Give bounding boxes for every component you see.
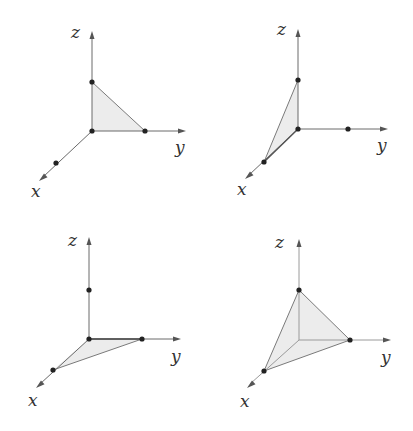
y-point: [142, 128, 147, 133]
z-axis-label: z: [276, 19, 287, 39]
y-arrow-icon: [178, 129, 186, 134]
diagram-panel-3: z y x: [28, 230, 181, 410]
z-arrow-icon: [297, 239, 302, 247]
y-arrow-icon: [383, 338, 391, 343]
y-point: [347, 337, 352, 342]
z-point: [296, 287, 301, 292]
x-point: [261, 368, 266, 373]
z-arrow-icon: [87, 237, 92, 245]
z-point: [295, 77, 300, 82]
x-axis-label: x: [237, 179, 247, 199]
origin-point: [89, 128, 94, 133]
origin-point: [295, 126, 300, 131]
y-arrow-icon: [173, 337, 181, 342]
x-axis-label: x: [240, 391, 250, 411]
x-point: [53, 160, 58, 165]
x-arrow-icon: [247, 381, 256, 389]
z-arrow-icon: [90, 31, 95, 39]
x-axis-label: x: [28, 390, 38, 410]
x-axis: [40, 339, 89, 384]
z-axis-label: z: [70, 22, 81, 42]
shaded-triangle-xyz: [264, 290, 350, 371]
z-point: [86, 287, 91, 292]
y-point: [345, 126, 350, 131]
x-axis-label: x: [31, 181, 41, 201]
y-point: [139, 336, 144, 341]
diagram-panel-1: z y x: [31, 22, 186, 201]
y-axis-label: y: [174, 137, 185, 157]
origin-point: [86, 336, 91, 341]
diagram-panel-2: z y x: [237, 19, 388, 199]
z-axis-label: z: [274, 232, 285, 252]
y-axis-label: y: [170, 346, 181, 366]
x-point: [50, 367, 55, 372]
z-axis-label: z: [67, 230, 78, 250]
y-axis-label: y: [380, 347, 391, 367]
y-arrow-icon: [380, 127, 388, 132]
y-axis-label: y: [376, 135, 387, 155]
coordinate-diagrams: z y x z y x z y x: [0, 0, 413, 431]
z-arrow-icon: [296, 29, 301, 37]
x-axis: [43, 131, 92, 177]
diagram-panel-4: z y x: [240, 232, 391, 411]
z-point: [89, 79, 94, 84]
x-point: [261, 159, 266, 164]
